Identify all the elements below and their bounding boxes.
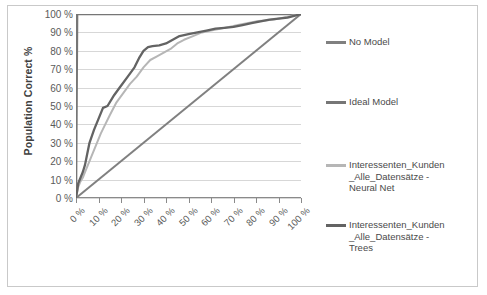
x-tick-label: 40 % [154,205,177,228]
x-tick-mark [189,198,190,203]
x-tick-mark [279,198,280,203]
y-axis-title: Population Correct % [22,21,34,181]
chart-legend: No ModelIdeal ModelInteressenten_Kunden … [326,14,476,259]
y-tick-label: 80 % [35,45,73,56]
x-tick-label: 50 % [176,205,199,228]
y-tick-label: 20 % [35,156,73,167]
x-tick-label: 20 % [109,205,132,228]
legend-label: Interessenten_Kunden _Alle_Datensätze - … [349,219,445,254]
legend-item[interactable]: Interessenten_Kunden _Alle_Datensätze - … [326,159,476,194]
y-tick-label: 10 % [35,174,73,185]
y-tick-label: 100 % [35,9,73,20]
y-axis-tick-labels: 0 %10 %20 %30 %40 %50 %60 %70 %80 %90 %1… [35,10,73,198]
x-tick-mark [301,198,302,203]
legend-item[interactable]: Ideal Model [326,96,476,108]
legend-label: No Model [349,36,390,48]
x-tick-label: 30 % [131,205,154,228]
x-tick-label: 10 % [86,205,109,228]
legend-color-swatch [326,224,346,227]
x-tick-mark [76,198,77,203]
y-tick-label: 60 % [35,82,73,93]
x-tick-mark [256,198,257,203]
y-tick-label: 50 % [35,101,73,112]
y-tick-label: 40 % [35,119,73,130]
series-line [76,14,301,198]
x-axis-tick-labels: 0 %10 %20 %30 %40 %50 %60 %70 %80 %90 %1… [76,198,301,248]
y-tick-label: 90 % [35,27,73,38]
legend-color-swatch [326,101,346,104]
x-tick-mark [211,198,212,203]
x-tick-label: 80 % [244,205,267,228]
legend-item[interactable]: Interessenten_Kunden _Alle_Datensätze - … [326,219,476,254]
y-tick-label: 30 % [35,137,73,148]
x-tick-mark [144,198,145,203]
legend-label: Interessenten_Kunden _Alle_Datensätze - … [349,159,445,194]
x-tick-mark [166,198,167,203]
legend-color-swatch [326,164,346,167]
chart-container: Population Correct % 0 %10 %20 %30 %40 %… [0,0,487,295]
plot-area [76,14,301,198]
x-tick-mark [99,198,100,203]
x-tick-label: 70 % [221,205,244,228]
legend-color-swatch [326,41,346,44]
legend-label: Ideal Model [349,96,398,108]
x-tick-mark [234,198,235,203]
legend-item[interactable]: No Model [326,36,476,48]
x-tick-mark [121,198,122,203]
series-lines [76,14,301,198]
x-tick-label: 60 % [199,205,222,228]
y-tick-label: 70 % [35,64,73,75]
y-tick-label: 0 % [35,193,73,204]
